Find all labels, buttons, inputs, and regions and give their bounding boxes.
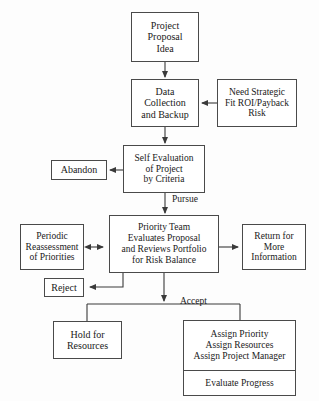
node-assign-priority-resources-manager[interactable]: Assign Priority Assign Resources Assign … <box>183 320 296 396</box>
node-line: Information <box>251 252 296 263</box>
node-line: Reject <box>51 282 77 293</box>
node-hold-for-resources[interactable]: Hold for Resources <box>53 321 122 359</box>
node-line: and Reviews Portfolio <box>122 244 207 255</box>
flowchart-diagram: Project Proposal Idea Data Collection an… <box>0 0 319 401</box>
node-line: Reassessment <box>26 242 79 253</box>
node-self-evaluation-of-project[interactable]: Self Evaluation of Project by Criteria <box>123 145 205 193</box>
connector-periodic-arrowhead-left <box>84 244 91 250</box>
node-line: More <box>264 242 285 253</box>
node-line: Resources <box>67 340 108 351</box>
node-line: Assign Project Manager <box>194 351 286 362</box>
node-line: Hold for <box>70 329 104 340</box>
node-line: by Criteria <box>144 174 185 185</box>
edge-label-accept: Accept <box>180 296 207 306</box>
node-line: of Project <box>145 164 182 175</box>
edge-label-pursue: Pursue <box>172 194 198 204</box>
node-line: Need Strategic <box>229 87 285 98</box>
node-line: Assign Resources <box>206 340 274 351</box>
node-line: Fit ROI/Payback <box>225 98 289 109</box>
assign-tasks-section: Assign Priority Assign Resources Assign … <box>184 321 295 370</box>
evaluate-progress-section: Evaluate Progress <box>184 371 295 395</box>
node-line: Proposal <box>148 31 183 42</box>
node-line: Evaluate Progress <box>205 378 273 388</box>
node-line: Periodic <box>36 231 68 242</box>
node-reject[interactable]: Reject <box>44 278 84 297</box>
node-periodic-reassessment[interactable]: Periodic Reassessment of Priorities <box>20 224 84 270</box>
node-need-strategic-fit[interactable]: Need Strategic Fit ROI/Payback Risk <box>217 79 297 127</box>
node-data-collection-and-backup[interactable]: Data Collection and Backup <box>131 79 199 127</box>
node-line: Project <box>151 20 179 31</box>
node-project-proposal-idea[interactable]: Project Proposal Idea <box>131 12 199 62</box>
node-line: for Risk Balance <box>132 255 196 266</box>
node-line: Risk <box>248 108 265 119</box>
node-line: Assign Priority <box>211 329 269 340</box>
node-line: Collection <box>144 97 186 108</box>
node-line: of Priorities <box>29 252 74 263</box>
node-line: Data <box>156 86 175 97</box>
node-line: Evaluates Proposal <box>128 233 201 244</box>
node-line: Idea <box>156 43 173 54</box>
node-line: Self Evaluation <box>135 153 194 164</box>
node-line: and Backup <box>141 109 189 120</box>
node-priority-team-evaluates[interactable]: Priority Team Evaluates Proposal and Rev… <box>109 215 219 273</box>
node-line: Return for <box>254 231 293 242</box>
node-line: Abandon <box>61 164 98 175</box>
node-abandon[interactable]: Abandon <box>51 160 107 180</box>
connector-priority-to-reject <box>90 273 123 287</box>
node-return-for-more-information[interactable]: Return for More Information <box>242 224 306 270</box>
node-line: Priority Team <box>138 222 190 233</box>
